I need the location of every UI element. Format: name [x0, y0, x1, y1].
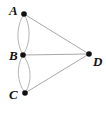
vertex-label-b: B	[9, 49, 18, 62]
arc-A-B-left	[18, 14, 24, 55]
vertex-dot-group	[20, 11, 92, 96]
vertex-dot-A	[21, 11, 27, 17]
edge-A-D	[24, 14, 89, 54]
vertex-label-a: A	[9, 4, 18, 17]
vertex-dot-B	[20, 52, 26, 58]
edge-C-D	[25, 54, 89, 93]
vertex-label-c: C	[9, 88, 18, 101]
vertex-dot-C	[22, 90, 28, 96]
geometry-diagram: A B C D	[0, 0, 106, 113]
arc-group-B-C	[18, 55, 30, 93]
edge-B-D	[23, 54, 89, 55]
arc-group-A-B	[18, 14, 29, 55]
straight-edge-group	[23, 14, 89, 93]
arc-A-B-right	[23, 14, 29, 55]
arc-B-C-left	[18, 55, 25, 93]
vertex-label-d: D	[93, 55, 102, 68]
arc-B-C-right	[23, 55, 30, 93]
vertex-dot-D	[86, 51, 92, 57]
